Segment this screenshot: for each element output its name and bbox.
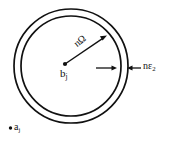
ring-thickness-label-text: nε: [143, 60, 152, 71]
outer-circle: [14, 9, 128, 123]
thickness-arrow-left: [96, 66, 117, 71]
thickness-arrow-right: [127, 66, 141, 71]
center-point-label: bj: [60, 68, 68, 81]
ring-thickness-label-sub: 2: [152, 65, 155, 72]
outside-point-label: aj: [14, 122, 20, 134]
annulus-diagram: nΩ bj nε2 aj: [0, 0, 173, 142]
outside-point-label-sub: j: [18, 126, 20, 133]
inner-circle: [21, 16, 121, 116]
ring-thickness-label: nε2: [143, 61, 156, 73]
outside-point-dot: [9, 126, 12, 129]
center-point-label-sub: j: [66, 72, 68, 81]
